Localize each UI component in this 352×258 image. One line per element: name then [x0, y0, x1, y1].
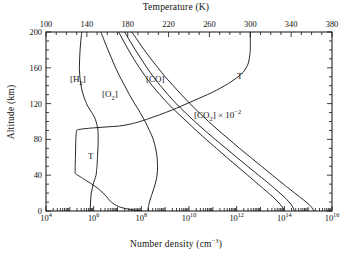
curve--co2-	[132, 32, 314, 211]
figure-container: Temperature (K) Number density (cm−3) Al…	[0, 0, 352, 258]
plot-canvas	[0, 0, 352, 258]
curve--o2-	[101, 32, 158, 211]
curve--co-	[119, 32, 285, 211]
curve-t	[75, 32, 250, 211]
data-curves	[75, 32, 314, 211]
axis-ticks	[46, 32, 332, 211]
curve--co2-x10-2	[125, 32, 295, 211]
curve--h2-	[79, 32, 98, 211]
plot-frame	[46, 32, 332, 211]
